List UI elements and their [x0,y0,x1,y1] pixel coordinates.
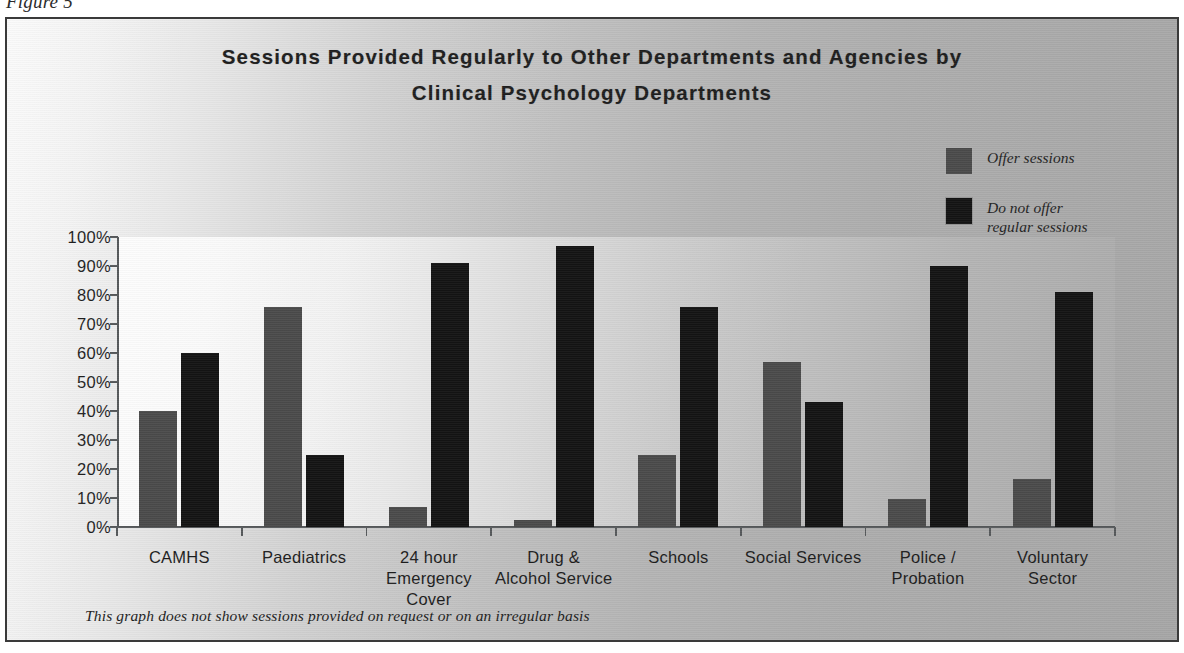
y-axis-tick-mark [110,439,118,441]
y-axis-tick-label: 100% [55,228,111,247]
y-axis-tick-label: 20% [55,460,111,479]
bar-rect [930,266,968,527]
chart-footnote: This graph does not show sessions provid… [85,607,590,625]
bar-do-not-offer [431,237,469,527]
bar-rect [306,455,344,528]
bar-offer-sessions [514,237,552,527]
y-axis-tick-label: 10% [55,489,111,508]
chart-title-line-1: Sessions Provided Regularly to Other Dep… [222,45,962,68]
x-axis-tick-mark [989,527,991,536]
bar-rect [888,499,926,527]
bar-do-not-offer [680,237,718,527]
bar-do-not-offer [1055,237,1093,527]
x-axis-tick-mark [241,527,243,536]
bar-do-not-offer [181,237,219,527]
bar-offer-sessions [638,237,676,527]
bars-layer [117,237,1115,527]
bar-rect [431,263,469,527]
y-axis-tick-label: 70% [55,315,111,334]
bar-rect [181,353,219,527]
y-axis-tick-mark [110,236,118,238]
x-axis-tick-mark [615,527,617,536]
bar-offer-sessions [888,237,926,527]
bar-do-not-offer [556,237,594,527]
bar-offer-sessions [763,237,801,527]
y-axis-tick-label: 60% [55,344,111,363]
legend-item-offer-sessions: Offer sessions [945,147,1171,175]
bar-rect [638,455,676,528]
chart-title-line-2: Clinical Psychology Departments [7,75,1177,111]
bar-do-not-offer [805,237,843,527]
bar-rect [514,520,552,527]
y-axis-tick-label: 30% [55,431,111,450]
bar-rect [805,402,843,527]
x-axis-tick-mark [865,527,867,536]
bar-rect [1055,292,1093,527]
bar-rect [680,307,718,527]
x-axis-tick-mark [740,527,742,536]
bar-offer-sessions [1013,237,1051,527]
bar-offer-sessions [139,237,177,527]
x-axis-category-label: VoluntarySector [970,547,1135,589]
x-axis-tick-mark [366,527,368,536]
bar-offer-sessions [264,237,302,527]
bar-rect [556,246,594,527]
y-axis-tick-mark [110,410,118,412]
bar-do-not-offer [306,237,344,527]
legend-swatch-offer-sessions [945,147,973,175]
x-axis-tick-mark [1114,527,1116,536]
legend-label-offer-sessions: Offer sessions [987,147,1074,167]
x-axis-tick-mark [116,527,118,536]
y-axis-tick-label: 0% [55,518,111,537]
bar-do-not-offer [930,237,968,527]
y-axis-tick-mark [110,323,118,325]
y-axis-tick-label: 50% [55,373,111,392]
bar-offer-sessions [389,237,427,527]
chart-title: Sessions Provided Regularly to Other Dep… [7,39,1177,111]
bar-rect [1013,479,1051,527]
y-axis-tick-mark [110,468,118,470]
y-axis-tick-mark [110,294,118,296]
y-axis-tick-mark [110,352,118,354]
bar-rect [389,507,427,527]
y-axis-labels: 100%90%80%70%60%50%40%30%20%10%0% [55,219,111,534]
bar-rect [763,362,801,527]
plot-area: 100%90%80%70%60%50%40%30%20%10%0% CAMHSP… [55,219,1115,534]
y-axis-tick-label: 90% [55,257,111,276]
y-axis-tick-mark [110,497,118,499]
bar-rect [264,307,302,527]
bar-rect [139,411,177,527]
y-axis-tick-label: 80% [55,286,111,305]
figure-frame: Sessions Provided Regularly to Other Dep… [5,17,1179,642]
y-axis-tick-mark [110,381,118,383]
x-axis-tick-mark [490,527,492,536]
y-axis-tick-label: 40% [55,402,111,421]
figure-caption: Figure 5 [6,0,73,13]
y-axis-tick-mark [110,265,118,267]
